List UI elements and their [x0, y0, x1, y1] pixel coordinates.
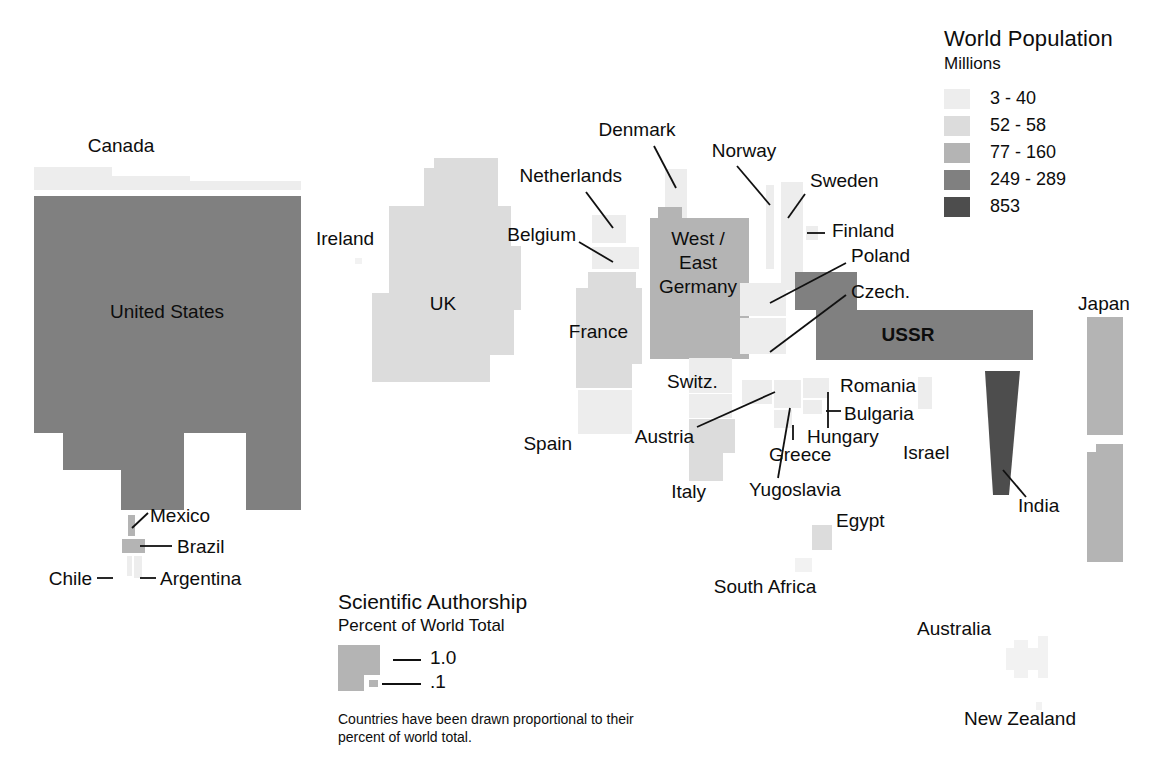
country-shape-brazil	[122, 539, 145, 553]
area-legend-title: Scientific Authorship	[338, 590, 638, 614]
label-chile: Chile	[49, 569, 92, 589]
population-legend-rows: 3 - 40 52 - 58 77 - 160 249 - 289 853	[944, 85, 1113, 220]
country-shape-japan-south	[1087, 452, 1123, 562]
country-shape-argentina	[134, 556, 142, 578]
area-value-large: 1.0	[430, 647, 456, 669]
country-shape-uk-top2	[424, 168, 498, 206]
legend-row: 3 - 40	[944, 85, 1113, 112]
legend-swatch-1	[944, 89, 970, 109]
legend-swatch-3	[944, 143, 970, 163]
label-poland: Poland	[851, 246, 910, 266]
legend-label-3: 77 - 160	[990, 142, 1056, 163]
country-shape-united-states-step2	[121, 433, 184, 510]
label-south-africa: South Africa	[714, 577, 816, 597]
country-shape-uk-mid	[389, 206, 511, 246]
label-sweden: Sweden	[810, 171, 879, 191]
label-india: India	[1018, 496, 1059, 516]
country-shape-uk-bottom2	[372, 310, 514, 355]
area-swatch-large	[338, 645, 380, 675]
label-czech: Czech.	[851, 282, 910, 302]
area-legend: Scientific Authorship Percent of World T…	[338, 590, 638, 746]
legend-row: 77 - 160	[944, 139, 1113, 166]
label-switzerland: Switz.	[667, 372, 718, 392]
area-leader-large	[393, 659, 421, 661]
country-shape-india	[985, 371, 1020, 495]
label-japan: Japan	[1078, 294, 1130, 314]
country-shape-poland	[740, 283, 786, 316]
legend-swatch-5	[944, 197, 970, 217]
label-united-states: United States	[110, 302, 224, 322]
label-australia: Australia	[917, 619, 991, 639]
legend-row: 249 - 289	[944, 166, 1113, 193]
legend-swatch-2	[944, 116, 970, 136]
population-legend-subtitle: Millions	[944, 54, 1113, 74]
country-shape-canada-c	[34, 181, 301, 190]
country-shape-italy-b	[689, 419, 735, 453]
label-france: France	[569, 322, 628, 342]
area-legend-key: 1.0 .1	[338, 645, 618, 707]
country-shape-greece	[774, 410, 792, 428]
label-new-zealand: New Zealand	[964, 709, 1076, 729]
country-shape-uk-bottom3	[372, 355, 490, 382]
country-shape-austria	[689, 394, 732, 418]
label-brazil: Brazil	[177, 537, 225, 557]
label-denmark: Denmark	[598, 120, 675, 140]
country-shape-france-b	[576, 364, 632, 388]
country-shape-united-states-step3	[246, 433, 301, 510]
country-shape-egypt	[812, 525, 832, 550]
population-legend: World Population Millions 3 - 40 52 - 58…	[944, 26, 1113, 220]
label-norway: Norway	[712, 141, 776, 161]
legend-label-1: 3 - 40	[990, 88, 1036, 109]
label-ussr: USSR	[882, 325, 935, 345]
country-shape-ussr-top	[795, 272, 857, 310]
label-mexico: Mexico	[150, 506, 210, 526]
label-canada: Canada	[88, 136, 155, 156]
country-shape-australia-c	[1038, 636, 1048, 678]
area-leader-small	[382, 683, 421, 685]
label-uk: UK	[430, 294, 456, 314]
country-shape-bulgaria	[803, 400, 822, 414]
label-yugoslavia: Yugoslavia	[749, 480, 841, 500]
label-israel: Israel	[903, 443, 949, 463]
country-shape-uk-mid2	[389, 246, 521, 293]
label-egypt: Egypt	[836, 511, 885, 531]
country-shape-japan-south-notch	[1096, 444, 1123, 460]
area-legend-note: Countries have been drawn proportional t…	[338, 711, 638, 746]
country-shape-netherlands	[592, 215, 626, 243]
country-shape-canada	[34, 167, 112, 181]
label-germany-line3: Germany	[659, 277, 737, 297]
country-shape-norway	[766, 185, 774, 269]
label-italy: Italy	[671, 482, 706, 502]
area-value-small: .1	[430, 671, 446, 693]
label-germany-line2: East	[659, 253, 737, 273]
label-germany: West / East Germany	[659, 229, 737, 297]
country-shape-spain	[578, 390, 632, 434]
label-netherlands: Netherlands	[520, 166, 622, 186]
country-shape-czech	[740, 318, 786, 354]
legend-label-5: 853	[990, 196, 1020, 217]
area-swatch-small	[369, 680, 378, 687]
country-shape-yugoslavia	[774, 380, 801, 408]
label-germany-line1: West /	[659, 229, 737, 249]
country-shape-belgium	[592, 247, 639, 269]
country-shape-chile	[127, 556, 132, 576]
country-shape-ireland	[355, 258, 362, 264]
label-greece: Greece	[769, 445, 831, 465]
label-spain: Spain	[523, 434, 572, 454]
area-swatch-large-foot	[338, 675, 364, 691]
legend-row: 853	[944, 193, 1113, 220]
country-shape-finland	[806, 226, 818, 240]
country-shape-mexico	[128, 515, 135, 536]
country-shape-israel	[918, 377, 932, 409]
label-bulgaria: Bulgaria	[844, 404, 914, 424]
area-legend-subtitle: Percent of World Total	[338, 616, 638, 636]
country-shape-romania	[803, 378, 829, 398]
population-legend-title: World Population	[944, 26, 1113, 52]
country-shape-south-africa	[795, 558, 812, 572]
country-shape-united-states-step1	[63, 433, 121, 470]
country-shape-hungary	[742, 380, 772, 404]
legend-row: 52 - 58	[944, 112, 1113, 139]
leader-india	[1003, 470, 1026, 497]
country-shape-japan-north-notch	[1087, 317, 1123, 427]
label-belgium: Belgium	[507, 225, 576, 245]
